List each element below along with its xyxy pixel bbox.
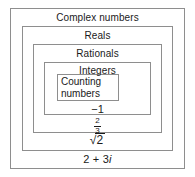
- label-reals: Reals: [0, 30, 195, 42]
- example-complex: 2 + 3i: [0, 153, 195, 166]
- complex-real-part: 2 + 3: [83, 153, 109, 165]
- radicand: 2: [95, 133, 105, 147]
- number-systems-diagram: Complex numbers Reals Rationals Integers…: [0, 0, 195, 177]
- example-real: √2: [0, 133, 195, 147]
- label-counting-numbers-line1: Counting: [61, 76, 117, 88]
- imaginary-unit: i: [109, 153, 112, 165]
- label-complex-numbers: Complex numbers: [0, 12, 195, 24]
- label-counting-numbers-line2: numbers: [61, 88, 117, 100]
- label-counting-numbers: Counting numbers: [61, 76, 117, 99]
- example-integer: −1: [0, 103, 195, 115]
- label-rationals: Rationals: [0, 48, 195, 60]
- square-root-expression: √2: [90, 133, 105, 147]
